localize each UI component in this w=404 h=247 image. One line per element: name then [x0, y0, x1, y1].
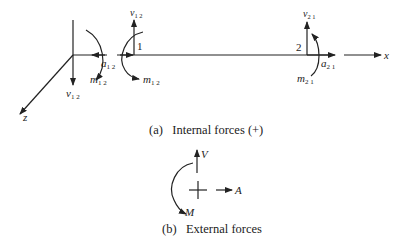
left-coordinate-frame: z v1 2 a1 2 m1 2: [20, 20, 116, 123]
v12-left-label: v1 2: [66, 87, 80, 101]
a21-label: a2 1: [321, 57, 336, 71]
node-1-label: 1: [137, 40, 143, 52]
V-label: V: [201, 148, 209, 160]
beam-element: 1 2 v1 2 m1 2 v2 1 a2 1 m2 1: [117, 7, 336, 87]
m12-left-label: m1 2: [90, 73, 107, 87]
z-axis-label: z: [22, 111, 28, 123]
x-axis-label: x: [383, 49, 389, 61]
node-2-label: 2: [296, 41, 302, 53]
m21-label: m2 1: [297, 72, 314, 86]
A-label: A: [234, 184, 242, 196]
caption-part-b: (b) External forces: [162, 222, 262, 236]
caption-part-a: (a) Internal forces (+): [149, 123, 263, 137]
beam-force-diagram: z v1 2 a1 2 m1 2 1 2 v1 2 m1 2: [0, 0, 404, 247]
v21-label: v2 1: [303, 8, 316, 20]
external-forces-diagram: V A M: [172, 148, 242, 218]
v12-node1-label: v1 2: [130, 7, 143, 19]
M-label: M: [184, 206, 195, 218]
z-axis-arrow: [20, 55, 73, 114]
m12-node1-label: m1 2: [143, 73, 160, 87]
